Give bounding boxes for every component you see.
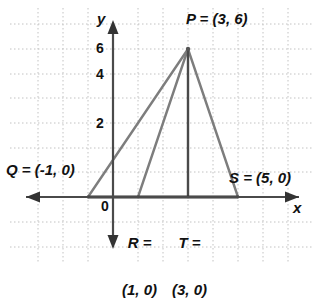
origin-label: 0 (101, 199, 109, 214)
point-label-q: Q = (-1, 0) (6, 162, 75, 178)
y-tick-label-2: 2 (96, 116, 104, 131)
y-axis-label: y (97, 11, 105, 27)
point-label-r-line1: R = (122, 235, 157, 251)
point-label-t-line1: T = (172, 235, 207, 251)
x-axis-left-arrowhead (26, 192, 40, 203)
y-axis-down-arrowhead (108, 235, 119, 249)
point-label-s: S = (5, 0) (229, 170, 291, 186)
segment-p-r (138, 49, 188, 197)
vertex-dot-p (186, 47, 190, 51)
point-label-p: P = (3, 6) (186, 11, 248, 27)
point-label-t-line2: (3, 0) (172, 282, 207, 298)
y-tick-label-6: 6 (96, 41, 104, 56)
point-label-r-line2: (1, 0) (122, 282, 157, 298)
grid-lines (10, 8, 313, 262)
x-axis-label: x (293, 200, 301, 216)
y-axis-up-arrowhead (108, 20, 119, 34)
y-tick-label-4: 4 (96, 67, 104, 82)
point-label-r: R = (1, 0) (122, 203, 157, 302)
point-label-t: T = (3, 0) (172, 203, 207, 302)
